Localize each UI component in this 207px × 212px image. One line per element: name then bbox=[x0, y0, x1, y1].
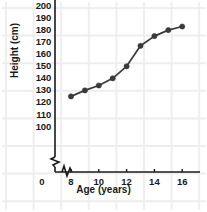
data-point-age-9 bbox=[82, 88, 87, 93]
data-point-age-13 bbox=[138, 43, 143, 48]
data-point-age-11 bbox=[110, 76, 115, 81]
data-point-age-14 bbox=[152, 34, 157, 39]
data-point-age-8 bbox=[68, 94, 73, 99]
data-point-age-15 bbox=[166, 28, 171, 33]
data-line-height bbox=[71, 27, 182, 97]
data-point-age-12 bbox=[124, 64, 129, 69]
y-axis-break-mark bbox=[51, 157, 59, 167]
data-point-age-10 bbox=[96, 83, 101, 88]
data-point-age-16 bbox=[180, 24, 185, 29]
y-axis-title: Height (cm) bbox=[9, 1, 20, 101]
height-vs-age-line-chart: 100110120130140150160170180190200 081012… bbox=[0, 0, 207, 212]
x-axis-title: Age (years) bbox=[0, 184, 207, 195]
chart-plot-area bbox=[0, 0, 207, 212]
